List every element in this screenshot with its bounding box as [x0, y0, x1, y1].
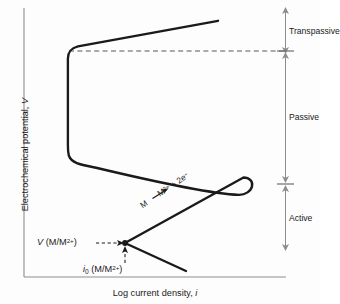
exchange-current-leader-arrowhead: [122, 246, 128, 253]
exchange-current-subscript: 0: [85, 268, 89, 275]
corrosion-potential-paren-open: (M/M: [43, 237, 66, 247]
corrosion-potential-label: V (M/M2+): [37, 238, 77, 247]
x-axis-label: Log current density, i: [24, 289, 286, 298]
corrosion-potential-paren-close: ): [74, 237, 77, 247]
x-axis-label-symbol: i: [195, 288, 197, 298]
exchange-current-label: i0 (M/M2+): [83, 265, 122, 274]
exchange-current-charge: 2+: [112, 264, 119, 271]
region-label-passive: Passive: [289, 113, 319, 122]
y-axis-label-text: Electrochemical potential,: [20, 104, 30, 211]
region-indicator-transpassive: [282, 7, 289, 54]
y-axis-label: Electrochemical potential, V: [21, 75, 30, 235]
exchange-current-paren-open: (M/M: [89, 264, 112, 274]
region-label-active: Active: [289, 214, 312, 223]
corrosion-potential-charge: 2+: [67, 237, 74, 244]
region-indicator-passive: [282, 52, 289, 183]
region-indicator-active: [282, 185, 289, 251]
y-axis-label-symbol: V: [20, 98, 30, 104]
cathodic-branch-line: [126, 244, 186, 272]
exchange-current-paren-close: ): [119, 264, 122, 274]
region-label-transpassive: Transpassive: [289, 27, 340, 36]
x-axis-label-text: Log current density,: [113, 288, 196, 298]
corrosion-potential-leader-arrowhead: [117, 240, 124, 246]
anodic-polarization-curve: [68, 21, 252, 243]
